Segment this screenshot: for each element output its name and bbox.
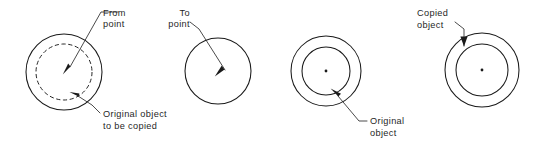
copied-object-label-line2: object: [417, 20, 444, 30]
from-point-label-line2: point: [103, 19, 125, 29]
center-point-original: [325, 70, 328, 73]
to-point-label-line2: point: [168, 19, 190, 29]
copied-object-arrowhead: [460, 36, 467, 46]
panel-to-point: To point: [168, 8, 251, 104]
panel-original-object: From point Original object to be copied: [26, 8, 167, 131]
original-to-be-copied-label-line1: Original object: [103, 109, 167, 119]
circle-destination: [185, 38, 251, 104]
from-point-label-line1: From: [103, 8, 126, 18]
original-object-label-line1: Original: [370, 116, 404, 126]
inner-dashed-circle-source: [36, 44, 92, 100]
panel-original-result: Original object: [291, 36, 404, 138]
original-to-be-copied-arrowhead: [70, 92, 80, 96]
diagram-canvas: From point Original object to be copied …: [0, 0, 540, 151]
center-point-copy: [481, 69, 484, 72]
original-object-leader-line: [338, 96, 367, 121]
outer-circle-source: [26, 34, 102, 110]
original-to-be-copied-label-line2: to be copied: [103, 121, 157, 131]
panel-copied-object: Copied object: [417, 8, 519, 107]
to-point-leader-line: [190, 22, 225, 70]
copied-object-label-line1: Copied: [417, 8, 448, 18]
to-point-label-line1: To: [180, 8, 190, 18]
original-to-be-copied-leader-line: [78, 96, 100, 113]
original-object-label-line2: object: [370, 128, 397, 138]
from-point-arrowhead: [63, 63, 71, 74]
original-object-arrowhead: [331, 89, 341, 97]
copy-command-diagram: From point Original object to be copied …: [0, 0, 540, 151]
